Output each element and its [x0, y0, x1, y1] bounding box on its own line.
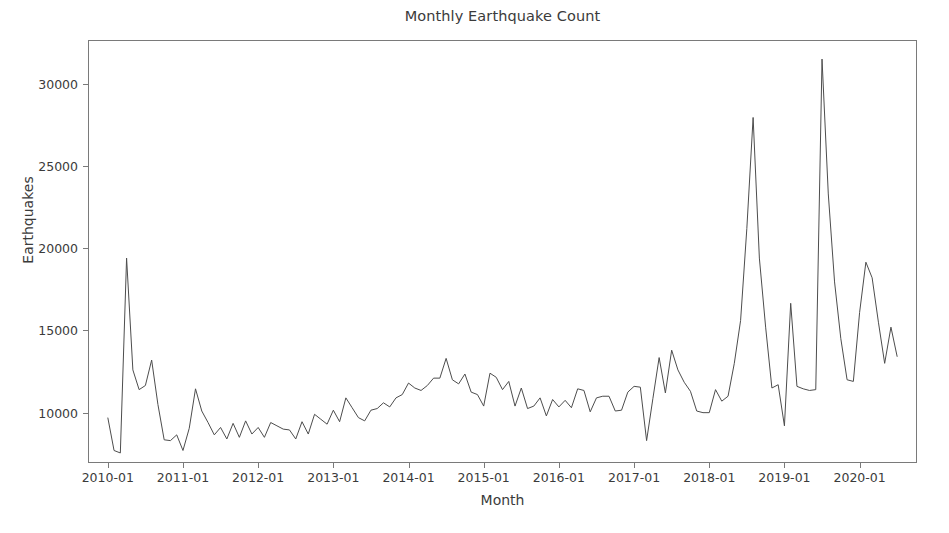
y-tick-mark [83, 330, 88, 331]
y-tick-mark [83, 84, 88, 85]
x-tick-mark [484, 463, 485, 468]
x-tick-label: 2011-01 [157, 470, 209, 485]
x-tick-mark [634, 463, 635, 468]
x-tick-mark [183, 463, 184, 468]
x-tick-label: 2014-01 [382, 470, 434, 485]
y-tick-mark [83, 413, 88, 414]
x-tick-label: 2016-01 [533, 470, 585, 485]
y-tick-mark [83, 248, 88, 249]
plot-area [88, 40, 917, 463]
chart-figure: Monthly Earthquake Count Earthquakes 100… [0, 0, 949, 533]
x-tick-mark [559, 463, 560, 468]
chart-title: Monthly Earthquake Count [88, 8, 917, 24]
x-tick-label: 2012-01 [232, 470, 284, 485]
x-tick-label: 2020-01 [833, 470, 885, 485]
x-axis-label: Month [88, 492, 917, 508]
x-tick-mark [258, 463, 259, 468]
x-tick-label: 2018-01 [683, 470, 735, 485]
x-tick-mark [409, 463, 410, 468]
x-tick-label: 2019-01 [758, 470, 810, 485]
y-tick-label: 15000 [12, 323, 78, 338]
earthquake-line-series [89, 41, 916, 462]
x-tick-label: 2010-01 [82, 470, 134, 485]
y-tick-mark [83, 166, 88, 167]
x-tick-label: 2013-01 [307, 470, 359, 485]
y-tick-label: 10000 [12, 405, 78, 420]
y-tick-label: 25000 [12, 158, 78, 173]
y-tick-label: 30000 [12, 76, 78, 91]
x-tick-mark [860, 463, 861, 468]
x-tick-mark [709, 463, 710, 468]
x-tick-mark [108, 463, 109, 468]
x-tick-label: 2015-01 [458, 470, 510, 485]
y-tick-label: 20000 [12, 241, 78, 256]
y-axis-ticks: 1000015000200002500030000 [0, 0, 78, 533]
x-tick-mark [333, 463, 334, 468]
x-tick-mark [784, 463, 785, 468]
x-tick-label: 2017-01 [608, 470, 660, 485]
